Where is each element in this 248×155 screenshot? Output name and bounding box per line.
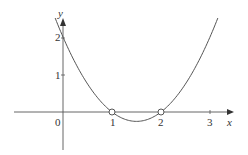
plot-area	[0, 0, 248, 155]
x-tick-1: 1	[110, 117, 116, 128]
x-tick-3: 3	[207, 117, 213, 128]
x-axis-arrow-icon	[227, 109, 234, 115]
origin-label: 0	[55, 117, 61, 128]
y-axis-arrow-icon	[60, 18, 66, 26]
y-tick-2: 2	[55, 32, 61, 43]
x-axis-label: x	[227, 117, 232, 128]
y-tick-1: 1	[55, 70, 61, 81]
x-tick-2: 2	[158, 117, 164, 128]
open-circle-marker	[158, 109, 164, 115]
y-axis-label: y	[58, 8, 63, 19]
function-graph: y 2 1 0 1 2 3 x	[0, 0, 248, 155]
open-circle-marker	[109, 109, 115, 115]
curve-series	[55, 18, 218, 121]
